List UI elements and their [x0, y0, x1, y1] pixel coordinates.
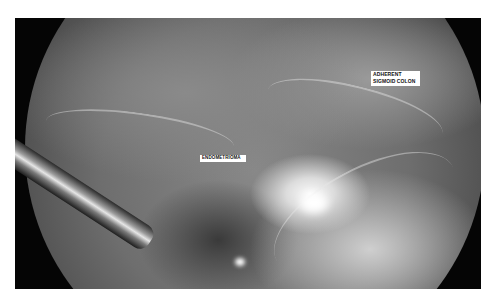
- label-adherent-sigmoid-colon: ADHERENT SIGMOID COLON: [371, 71, 420, 86]
- label-endometrioma: ENDOMETRIOMA: [200, 155, 246, 162]
- label-line: ADHERENT: [373, 71, 418, 78]
- light-glare: [235, 258, 245, 266]
- label-line: SIGMOID COLON: [373, 78, 418, 85]
- laparoscopic-image: ADHERENT SIGMOID COLON ENDOMETRIOMA: [15, 18, 481, 289]
- light-glare: [300, 193, 328, 213]
